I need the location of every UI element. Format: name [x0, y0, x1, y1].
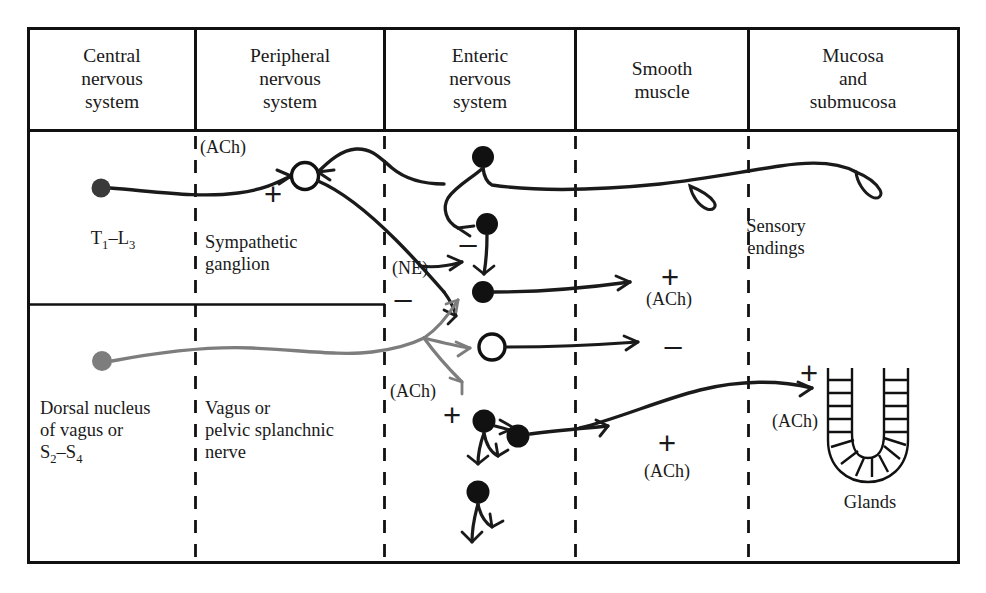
- enteric-lower-b-axon: [530, 426, 608, 434]
- enteric-lower-a-dendrite-fork: [496, 444, 508, 456]
- sign-vagal-excitatory: +: [437, 400, 467, 431]
- sign-ach-excitatory-glands: +: [794, 358, 824, 389]
- header-line: Enteric: [386, 44, 574, 67]
- enteric-soma-excitatory-motor: [472, 281, 494, 303]
- sign-ne-inhibitory-upper: –: [455, 228, 481, 259]
- preganglionic-parasympathetic-axon: [112, 338, 424, 361]
- parasympathetic-origin-line1: Dorsal nucleus: [40, 398, 196, 420]
- sympathetic-origin-dash: –L: [108, 228, 129, 248]
- header-line: and: [750, 67, 956, 90]
- sign-ganglion-excitatory: +: [258, 179, 288, 210]
- parasympathetic-origin-line2: of vagus or: [40, 420, 196, 442]
- excitatory-motor-axon: [494, 282, 630, 292]
- header-cell-peripheral-nervous-system: Peripheral nervous system: [197, 44, 383, 113]
- sympathetic-ganglion-line1: Sympathetic: [205, 232, 381, 254]
- header-line: Mucosa: [750, 44, 956, 67]
- enteric-interneuron-process: [484, 235, 487, 274]
- enteric-soma-lower-c: [467, 481, 490, 504]
- sensory-ending-loop-left: [690, 186, 715, 210]
- label-ach-excitatory-upper: (ACh): [624, 289, 714, 310]
- header-line: Smooth: [577, 57, 747, 80]
- header-line: muscle: [577, 80, 747, 103]
- label-sympathetic-ganglion: Sympathetic ganglion: [205, 232, 381, 276]
- sympathetic-ganglion-soma: [292, 163, 319, 190]
- sign-ach-excitatory-muscle: +: [652, 428, 682, 459]
- sensory-endings-line2: endings: [706, 238, 846, 260]
- header-line: nervous: [386, 67, 574, 90]
- diagram-canvas: Central nervous system Peripheral nervou…: [0, 0, 986, 593]
- enteric-sensory-long-process: [483, 163, 856, 189]
- sign-inhibitory-motor-neuron: –: [660, 330, 686, 361]
- header-cell-mucosa-and-submucosa: Mucosa and submucosa: [750, 44, 956, 113]
- sympathetic-ganglion-line2: ganglion: [205, 254, 381, 276]
- header-cell-central-nervous-system: Central nervous system: [30, 44, 194, 113]
- vagus-line2: pelvic splanchnic: [205, 420, 385, 442]
- sign-ne-inhibitory-lower: –: [390, 283, 416, 314]
- header-line: system: [30, 90, 194, 113]
- header-cell-enteric-nervous-system: Enteric nervous system: [386, 44, 574, 113]
- label-ne-postganglionic-sympathetic: (NE): [392, 258, 452, 279]
- inhibitory-motor-axon: [505, 342, 638, 347]
- sensory-ending-loop-right: [856, 172, 881, 198]
- sacral-origin-text: S: [40, 442, 50, 462]
- cns-parasympathetic-soma: [92, 351, 112, 371]
- cns-sympathetic-soma: [92, 179, 111, 198]
- header-line: Peripheral: [197, 44, 383, 67]
- header-line: system: [197, 90, 383, 113]
- vagus-line1: Vagus or: [205, 398, 385, 420]
- parasympathetic-origin-line3: S2–S4: [40, 442, 196, 467]
- label-glands: Glands: [818, 492, 922, 514]
- label-ach-excitatory-glands: (ACh): [755, 411, 835, 432]
- enteric-soma-inhibitory-motor: [479, 334, 505, 360]
- label-ach-preganglionic-sympathetic: (ACh): [200, 137, 280, 158]
- header-line: system: [386, 90, 574, 113]
- enteric-soma-lower-a: [473, 410, 496, 433]
- sympathetic-origin-sub2: 3: [129, 238, 135, 252]
- gland-acinus-icon: [828, 368, 908, 482]
- sensory-endings-line1: Sensory: [706, 216, 846, 238]
- label-ach-excitatory-muscle: (ACh): [622, 461, 712, 482]
- enteric-soma-sensory: [472, 146, 494, 168]
- header-line: submucosa: [750, 90, 956, 113]
- enteric-lower-c-dendrite-fork: [490, 514, 503, 527]
- enteric-soma-lower-b: [507, 425, 530, 448]
- header-cell-smooth-muscle: Smooth muscle: [577, 57, 747, 103]
- vagus-line3: nerve: [205, 442, 385, 464]
- sacral-origin-sub2: 4: [76, 451, 82, 465]
- sensory-afferent-to-ganglion: [318, 149, 444, 184]
- header-line: nervous: [197, 67, 383, 90]
- label-parasympathetic-origin: Dorsal nucleus of vagus or S2–S4: [40, 398, 196, 466]
- label-sensory-endings: Sensory endings: [706, 216, 846, 260]
- header-line: nervous: [30, 67, 194, 90]
- sensory-afferent-arrowhead: [318, 170, 334, 180]
- label-vagus-pelvic-splanchnic: Vagus or pelvic splanchnic nerve: [205, 398, 385, 463]
- header-line: Central: [30, 44, 194, 67]
- label-sympathetic-origin: T1–L3: [48, 228, 178, 253]
- vagal-branch-middle-fork: [456, 342, 470, 356]
- sympathetic-origin-text: T: [91, 228, 102, 248]
- sacral-origin-dash: –S: [57, 442, 77, 462]
